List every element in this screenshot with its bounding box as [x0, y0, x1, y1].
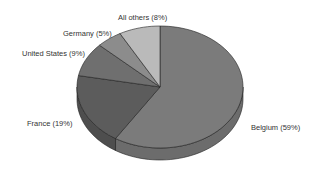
label-united-states: United States (9%): [22, 49, 85, 58]
pie-top-faces: [77, 26, 243, 148]
pie-chart: All others (8%) Germany (5%) United Stat…: [0, 0, 314, 174]
label-belgium: Belgium (59%): [251, 123, 301, 132]
label-germany: Germany (5%): [63, 29, 112, 38]
label-all-others: All others (8%): [118, 13, 168, 22]
label-france: France (19%): [27, 119, 73, 128]
